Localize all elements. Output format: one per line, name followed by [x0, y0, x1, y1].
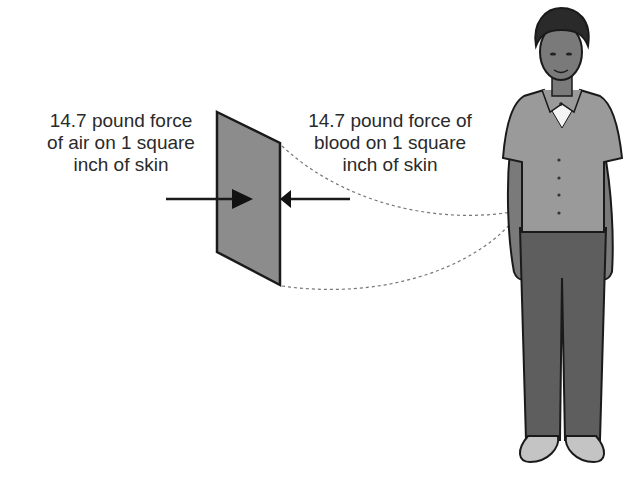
person-figure [503, 8, 622, 462]
pressure-diagram [0, 0, 641, 492]
dashed-connector-top [282, 146, 512, 215]
pants [520, 228, 606, 440]
blood-force-arrow-icon [280, 190, 350, 208]
dashed-connector-bottom [282, 222, 512, 289]
right-shoe [566, 436, 604, 462]
left-shoe [520, 436, 558, 462]
necklace-pendant [559, 102, 563, 106]
